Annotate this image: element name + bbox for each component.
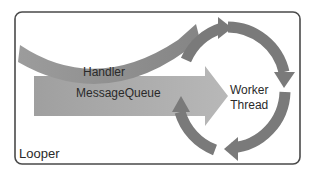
looper-label: Looper bbox=[19, 146, 59, 161]
looper-diagram: Handler MessageQueue Worker Thread Loope… bbox=[0, 0, 314, 183]
message-queue-label: MessageQueue bbox=[76, 86, 161, 100]
worker-thread-line1: Worker bbox=[230, 83, 268, 98]
worker-thread-label: Worker Thread bbox=[230, 83, 268, 113]
handler-label: Handler bbox=[83, 65, 125, 79]
worker-thread-line2: Thread bbox=[230, 98, 268, 113]
